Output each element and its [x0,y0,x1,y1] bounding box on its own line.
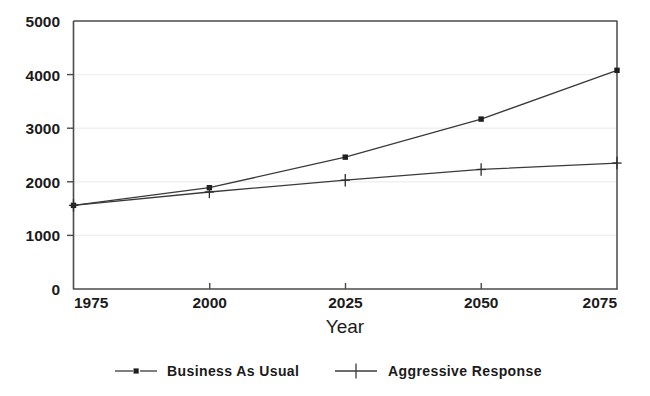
y-axis-ticks [67,75,74,236]
x-tick-label: 2000 [193,294,227,311]
chart-legend: Business As Usual Aggressive Response [115,363,542,379]
y-tick-label: 5000 [26,13,60,30]
series-aggressive-response [69,157,622,212]
chart-canvas: 5000 4000 3000 2000 1000 0 1975 2000 202… [0,0,650,396]
x-tick-label: 2025 [328,294,363,311]
square-dot-icon [115,368,157,373]
y-tick-label: 1000 [26,227,60,244]
y-tick-label: 3000 [26,120,60,137]
y-tick-label: 0 [51,281,60,298]
plus-marker-icon [335,364,377,379]
x-tick-labels: 1975 2000 2025 2050 2075 [74,294,617,311]
x-tick-label: 1975 [74,294,109,311]
x-tick-label: 2075 [583,294,618,311]
series-business-as-usual [71,68,620,208]
y-tick-label: 4000 [26,67,60,84]
line-chart-figure: 5000 4000 3000 2000 1000 0 1975 2000 202… [0,0,650,396]
y-tick-label: 2000 [26,174,60,191]
x-tick-label: 2050 [464,294,498,311]
legend-entry-aggressive-response: Aggressive Response [335,363,542,379]
legend-entry-business-as-usual: Business As Usual [115,363,299,379]
x-axis-ticks [210,283,482,289]
y-tick-labels: 5000 4000 3000 2000 1000 0 [26,13,60,298]
x-axis-title: Year [326,316,365,337]
legend-label: Aggressive Response [388,363,542,379]
legend-label: Business As Usual [167,363,299,379]
